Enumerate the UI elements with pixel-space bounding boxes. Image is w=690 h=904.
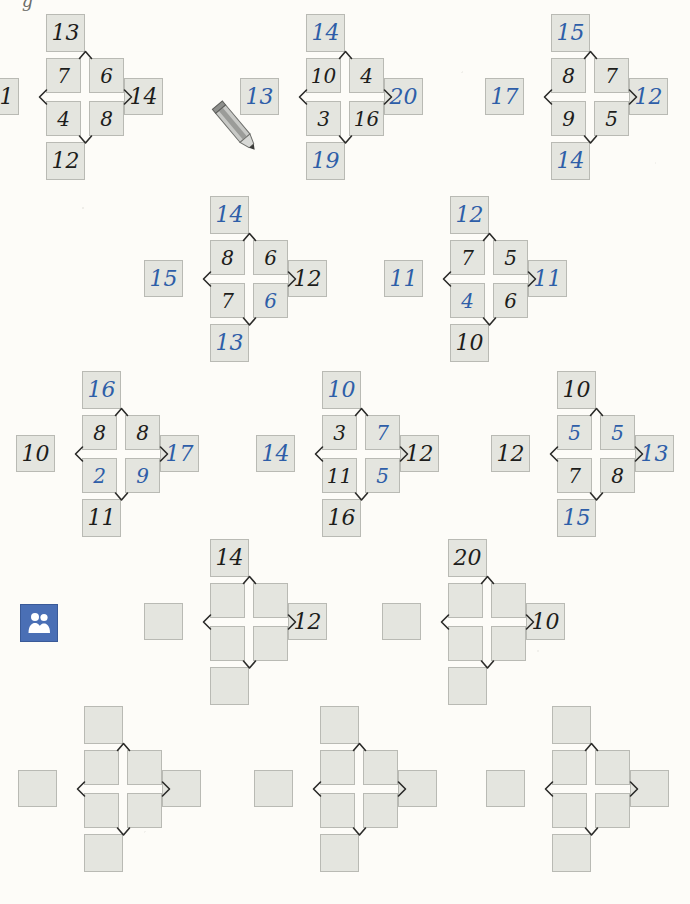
puzzle-cell-tr[interactable]: 7 — [594, 58, 629, 93]
puzzle-sum-box-top[interactable] — [552, 706, 591, 744]
puzzle-sum-box-top[interactable]: 14 — [306, 14, 345, 52]
puzzle-cell-tl[interactable]: 8 — [82, 415, 117, 450]
puzzle-sum-box-top[interactable]: 12 — [450, 196, 489, 234]
puzzle-cell-tr[interactable] — [127, 750, 162, 785]
puzzle-cell-tr[interactable]: 8 — [125, 415, 160, 450]
puzzle-cell-bl[interactable] — [552, 793, 587, 828]
puzzle-cell-tl[interactable] — [448, 583, 483, 618]
puzzle-cell-br[interactable]: 5 — [594, 101, 629, 136]
puzzle-cell-br[interactable]: 8 — [89, 101, 124, 136]
puzzle-cell-tl[interactable]: 7 — [46, 58, 81, 93]
puzzle-cell-tr[interactable]: 6 — [89, 58, 124, 93]
puzzle-sum-box-top[interactable]: 16 — [82, 371, 121, 409]
puzzle-sum-box-bottom[interactable]: 15 — [557, 499, 596, 537]
puzzle-sum-box-left[interactable] — [254, 770, 293, 807]
puzzle-cell-bl[interactable]: 11 — [322, 458, 357, 493]
puzzle-cell-bl[interactable]: 4 — [46, 101, 81, 136]
puzzle-cell-tl[interactable]: 5 — [557, 415, 592, 450]
puzzle-cell-tl[interactable] — [552, 750, 587, 785]
puzzle-sum-box-bottom[interactable] — [448, 667, 487, 705]
puzzle-cell-tl[interactable] — [320, 750, 355, 785]
puzzle-sum-box-top[interactable]: 10 — [322, 371, 361, 409]
puzzle-cell-tl[interactable]: 8 — [551, 58, 586, 93]
puzzle-sum-box-right[interactable]: 14 — [124, 78, 163, 115]
puzzle-cell-tr[interactable]: 5 — [493, 240, 528, 275]
puzzle-cell-tr[interactable]: 5 — [600, 415, 635, 450]
puzzle-sum-box-right[interactable]: 11 — [528, 260, 567, 297]
puzzle-sum-box-left[interactable] — [144, 603, 183, 640]
puzzle-sum-box-right[interactable] — [630, 770, 669, 807]
puzzle-cell-br[interactable]: 6 — [493, 283, 528, 318]
puzzle-sum-box-bottom[interactable]: 11 — [82, 499, 121, 537]
puzzle-cell-br[interactable] — [363, 793, 398, 828]
puzzle-sum-box-right[interactable] — [162, 770, 201, 807]
puzzle-sum-box-right[interactable]: 12 — [288, 603, 327, 640]
puzzle-cell-br[interactable]: 5 — [365, 458, 400, 493]
puzzle-sum-box-bottom[interactable] — [552, 834, 591, 872]
puzzle-sum-box-left[interactable] — [382, 603, 421, 640]
puzzle-cell-bl[interactable]: 7 — [210, 283, 245, 318]
puzzle-sum-box-left[interactable]: 17 — [485, 78, 524, 115]
puzzle-sum-box-top[interactable] — [84, 706, 123, 744]
puzzle-sum-box-top[interactable]: 14 — [210, 196, 249, 234]
puzzle-cell-br[interactable] — [595, 793, 630, 828]
puzzle-cell-tl[interactable]: 3 — [322, 415, 357, 450]
puzzle-sum-box-bottom[interactable]: 16 — [322, 499, 361, 537]
puzzle-cell-bl[interactable]: 2 — [82, 458, 117, 493]
puzzle-sum-box-right[interactable]: 12 — [288, 260, 327, 297]
puzzle-cell-tl[interactable]: 10 — [306, 58, 341, 93]
puzzle-cell-br[interactable] — [491, 626, 526, 661]
puzzle-sum-box-bottom[interactable]: 14 — [551, 142, 590, 180]
puzzle-sum-box-left[interactable]: 15 — [144, 260, 183, 297]
puzzle-cell-br[interactable]: 6 — [253, 283, 288, 318]
puzzle-cell-bl[interactable]: 7 — [557, 458, 592, 493]
puzzle-sum-box-right[interactable] — [398, 770, 437, 807]
puzzle-sum-box-left[interactable]: 11 — [0, 78, 19, 115]
puzzle-cell-tl[interactable] — [84, 750, 119, 785]
puzzle-sum-box-right[interactable]: 20 — [384, 78, 423, 115]
puzzle-sum-box-right[interactable]: 17 — [160, 435, 199, 472]
puzzle-sum-box-right[interactable]: 13 — [635, 435, 674, 472]
puzzle-cell-tl[interactable] — [210, 583, 245, 618]
puzzle-sum-box-bottom[interactable]: 12 — [46, 142, 85, 180]
puzzle-cell-tr[interactable]: 6 — [253, 240, 288, 275]
puzzle-sum-box-right[interactable]: 10 — [526, 603, 565, 640]
puzzle-sum-box-top[interactable]: 13 — [46, 14, 85, 52]
puzzle-cell-bl[interactable] — [210, 626, 245, 661]
puzzle-sum-box-left[interactable]: 14 — [256, 435, 295, 472]
puzzle-sum-box-top[interactable]: 20 — [448, 539, 487, 577]
puzzle-cell-tr[interactable] — [491, 583, 526, 618]
puzzle-cell-tl[interactable]: 8 — [210, 240, 245, 275]
puzzle-sum-box-right[interactable]: 12 — [629, 78, 668, 115]
puzzle-cell-br[interactable]: 16 — [349, 101, 384, 136]
puzzle-sum-box-left[interactable]: 10 — [16, 435, 55, 472]
puzzle-cell-tr[interactable] — [253, 583, 288, 618]
puzzle-sum-box-bottom[interactable] — [84, 834, 123, 872]
puzzle-sum-box-top[interactable]: 14 — [210, 539, 249, 577]
puzzle-sum-box-bottom[interactable]: 13 — [210, 324, 249, 362]
puzzle-cell-tr[interactable]: 4 — [349, 58, 384, 93]
puzzle-cell-bl[interactable] — [320, 793, 355, 828]
puzzle-sum-box-left[interactable]: 11 — [384, 260, 423, 297]
puzzle-cell-br[interactable] — [127, 793, 162, 828]
puzzle-cell-bl[interactable]: 9 — [551, 101, 586, 136]
puzzle-sum-box-left[interactable] — [18, 770, 57, 807]
puzzle-cell-tl[interactable]: 7 — [450, 240, 485, 275]
puzzle-cell-br[interactable] — [253, 626, 288, 661]
puzzle-sum-box-bottom[interactable]: 10 — [450, 324, 489, 362]
puzzle-sum-box-left[interactable]: 13 — [240, 78, 279, 115]
puzzle-cell-bl[interactable]: 3 — [306, 101, 341, 136]
puzzle-cell-br[interactable]: 9 — [125, 458, 160, 493]
puzzle-cell-bl[interactable] — [84, 793, 119, 828]
puzzle-cell-br[interactable]: 8 — [600, 458, 635, 493]
puzzle-cell-bl[interactable]: 4 — [450, 283, 485, 318]
puzzle-sum-box-bottom[interactable] — [320, 834, 359, 872]
puzzle-sum-box-top[interactable] — [320, 706, 359, 744]
puzzle-cell-tr[interactable] — [595, 750, 630, 785]
puzzle-sum-box-right[interactable]: 12 — [400, 435, 439, 472]
puzzle-cell-tr[interactable] — [363, 750, 398, 785]
puzzle-sum-box-left[interactable] — [486, 770, 525, 807]
puzzle-sum-box-bottom[interactable]: 19 — [306, 142, 345, 180]
puzzle-cell-bl[interactable] — [448, 626, 483, 661]
puzzle-sum-box-left[interactable]: 12 — [491, 435, 530, 472]
